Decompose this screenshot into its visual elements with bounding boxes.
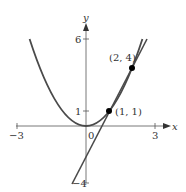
point-1-1 (106, 108, 112, 114)
tick-label-1: 1 (75, 106, 81, 117)
y-axis-arrow-icon (83, 23, 89, 31)
tick-label-neg3: −3 (9, 130, 24, 141)
origin-label: 0 (88, 130, 94, 141)
tick-label-6: 6 (75, 34, 81, 45)
tick-label-3: 3 (152, 130, 158, 141)
graph: y x −3 3 0 6 1 −4 (1, 1) (2, 4) (0, 0, 186, 192)
y-axis-label: y (82, 12, 89, 23)
x-axis-arrow-icon (163, 123, 171, 129)
point-label-1-1: (1, 1) (115, 106, 142, 117)
point-2-4 (129, 65, 135, 71)
tick-label-neg4: −4 (72, 178, 87, 189)
x-axis-label: x (172, 121, 178, 132)
point-label-2-4: (2, 4) (109, 52, 136, 63)
